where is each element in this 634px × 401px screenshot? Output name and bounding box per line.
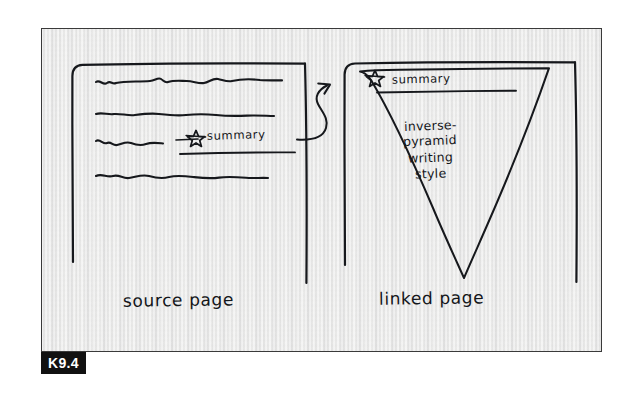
- figure-root: summary summary inverse- pyramid writing…: [0, 0, 634, 401]
- linked-summary-label: summary: [392, 71, 451, 86]
- pyramid-body-line: pyramid: [403, 132, 457, 149]
- source-summary-label: summary: [207, 127, 266, 143]
- linked-page-caption: linked page: [379, 287, 484, 308]
- figure-id-tag: K9.4: [41, 352, 86, 374]
- source-page-caption: source page: [123, 289, 234, 311]
- pyramid-body-line: writing: [408, 149, 454, 166]
- pyramid-body-line: style: [415, 165, 447, 181]
